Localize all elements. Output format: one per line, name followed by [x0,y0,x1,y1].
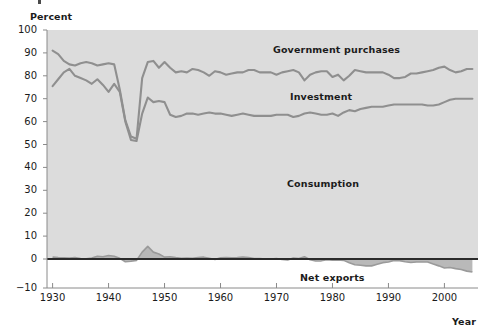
series-label-investment: Investment [290,91,352,102]
series-label-net-exports: Net exports [300,272,365,283]
page-artifact-mark [38,0,41,4]
gdp-components-chart: Percent Year Government purchases Invest… [0,0,495,332]
x-tick-label-1930: 1930 [33,292,73,303]
y-tick-label-10: 10 [9,230,37,241]
y-tick-label-30: 30 [9,184,37,195]
y-tick-label-50: 50 [9,139,37,150]
x-tick-label-2000: 2000 [424,292,464,303]
y-tick-label-0: 0 [9,253,37,264]
x-tick-label-1950: 1950 [145,292,185,303]
y-tick-label-80: 80 [9,70,37,81]
y-tick-label-70: 70 [9,93,37,104]
y-tick-label-90: 90 [9,47,37,58]
y-tick-label-100: 100 [9,24,37,35]
x-tick-label-1980: 1980 [312,292,352,303]
x-tick-label-1960: 1960 [201,292,241,303]
y-axis-title: Percent [30,11,72,22]
y-tick-label-20: 20 [9,207,37,218]
x-tick-label-1940: 1940 [89,292,129,303]
x-tick-label-1990: 1990 [368,292,408,303]
series-label-government-purchases: Government purchases [273,44,400,55]
y-tick-label-60: 60 [9,116,37,127]
y-tick-label-40: 40 [9,161,37,172]
plot-area [0,0,495,332]
x-tick-label-1970: 1970 [256,292,296,303]
x-axis-title: Year [452,316,476,327]
series-label-consumption: Consumption [287,178,359,189]
